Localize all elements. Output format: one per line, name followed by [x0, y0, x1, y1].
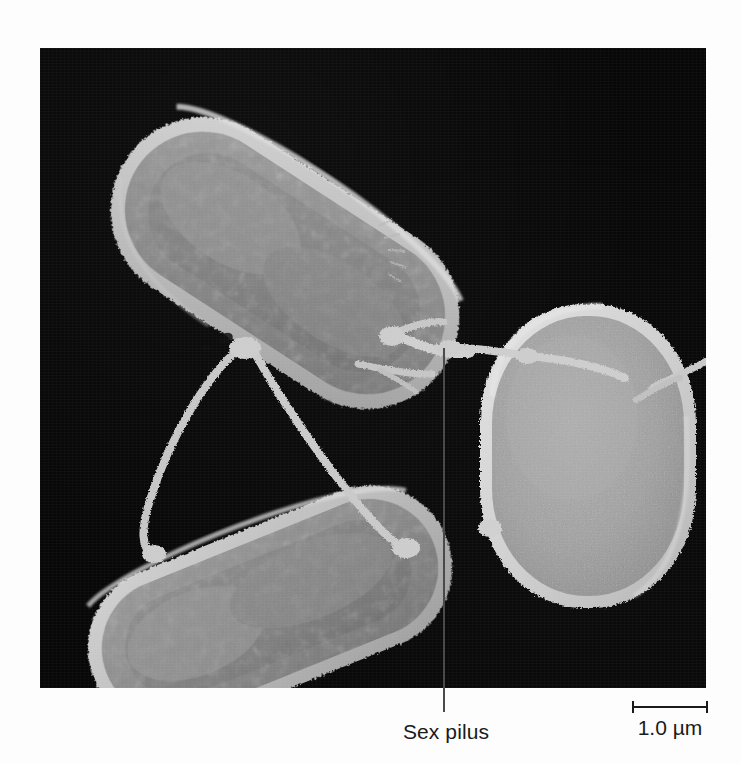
- scale-bar-line: [632, 706, 708, 708]
- scale-bar-cap-left: [632, 701, 634, 713]
- scale-bar: 1.0 µm: [629, 700, 711, 740]
- sem-figure: Sex pilus 1.0 µm: [0, 0, 741, 764]
- sex-pilus-leader-line: [443, 348, 445, 712]
- cell-upper-left: [74, 80, 496, 446]
- scale-bar-label: 1.0 µm: [629, 716, 711, 740]
- micrograph-content: [40, 48, 706, 688]
- sex-pilus-label: Sex pilus: [336, 719, 556, 744]
- pilus-bridge-left: [143, 348, 240, 556]
- scale-bar-rule: [629, 700, 711, 714]
- micrograph-plate: [40, 48, 706, 688]
- scale-bar-cap-right: [706, 701, 708, 713]
- cell-lower-left: [61, 455, 478, 688]
